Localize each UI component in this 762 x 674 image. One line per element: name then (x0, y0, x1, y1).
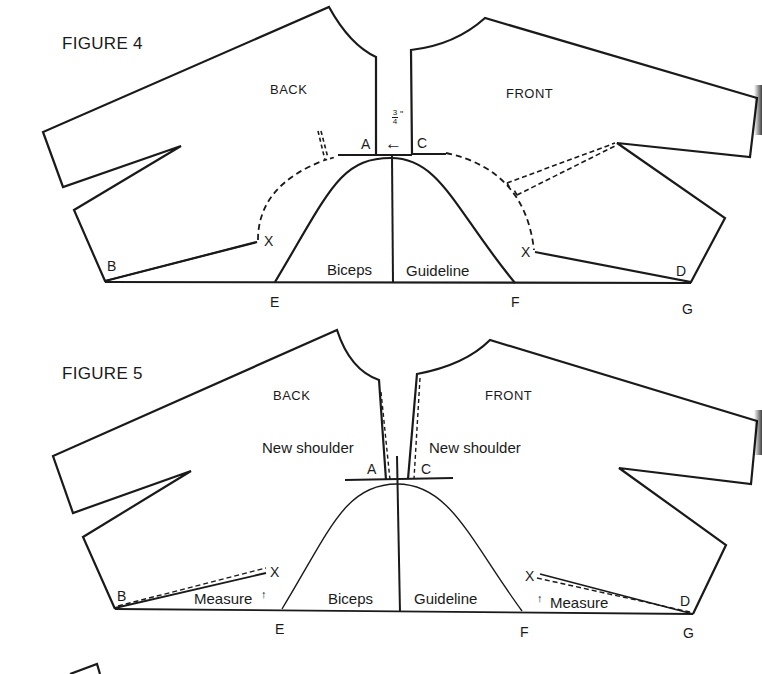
fig4-front-dashed-dart (507, 143, 615, 195)
fraction-denominator: 4 (392, 118, 398, 126)
up-arrow-icon: ↑ (261, 589, 267, 600)
fig4-biceps-label: Biceps (327, 262, 372, 277)
fig5-biceps-label: Biceps (328, 591, 373, 606)
figure5-back-label: BACK (273, 389, 310, 402)
figure4-title: FIGURE 4 (62, 35, 143, 52)
next-figure-fragment (70, 664, 100, 674)
figure4-front-label: FRONT (506, 87, 553, 100)
fig4-point-c: C (417, 136, 427, 150)
fig5-point-d: D (680, 594, 690, 608)
fig5-point-b: B (117, 589, 126, 603)
figure5-drawing (53, 330, 757, 614)
fig4-point-b: B (107, 259, 116, 273)
fig4-point-g: G (682, 302, 693, 316)
fig5-point-e: E (275, 622, 284, 636)
left-arrow-icon: ← (385, 135, 402, 152)
fig4-back-dashed-armhole (258, 160, 325, 240)
fig5-guideline-label: Guideline (414, 591, 477, 606)
page-edge-shadow (754, 85, 762, 135)
fig5-front-outline (408, 340, 757, 614)
figure5-title: FIGURE 5 (62, 365, 143, 382)
fig5-point-x-front: X (525, 569, 534, 583)
fig4-point-x-back: X (264, 234, 273, 248)
fig4-front-outline (411, 18, 757, 282)
fig4-back-hem (105, 242, 257, 281)
fig4-back-dashed-dart (318, 131, 336, 160)
fig4-sleeve-cap (275, 158, 515, 283)
fig5-point-g: G (683, 626, 694, 640)
pattern-diagram (0, 0, 762, 674)
fraction-numerator: 3 (392, 109, 398, 117)
fig4-point-f: F (511, 295, 520, 309)
up-arrow-icon: ↑ (537, 593, 543, 604)
fig5-measure-right: Measure (550, 595, 608, 610)
page-edge-shadow (754, 410, 762, 455)
figure5-front-label: FRONT (485, 389, 532, 402)
fig5-point-c: C (421, 462, 431, 476)
fig4-baseline (105, 282, 691, 283)
figure4-measurement-fraction: 3 4 (392, 109, 398, 126)
fig4-guideline (392, 155, 393, 283)
figure4-inch-mark: " (400, 110, 403, 119)
fig5-point-f: F (520, 625, 529, 639)
fig5-measure-left: Measure (194, 591, 252, 606)
fig4-front-dashed-armhole (446, 153, 534, 250)
fig4-point-a: A (361, 137, 370, 151)
fig4-guideline-label: Guideline (406, 263, 469, 278)
fig5-top-line (345, 478, 453, 480)
fig4-point-d: D (676, 264, 686, 278)
fig5-new-shoulder-left: New shoulder (262, 440, 354, 455)
fig4-point-x-front: X (521, 245, 530, 259)
figure4-back-label: BACK (270, 83, 307, 96)
fig5-sleeve-cap (282, 484, 522, 611)
fig5-point-a: A (367, 462, 376, 476)
fig5-new-shoulder-right: New shoulder (429, 440, 521, 455)
fig5-point-x-back: X (270, 565, 279, 579)
fig4-point-e: E (270, 295, 279, 309)
